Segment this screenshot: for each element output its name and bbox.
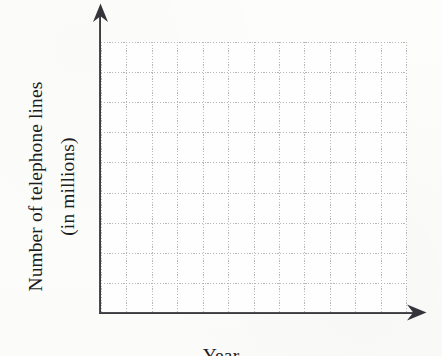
grid-line-horizontal	[101, 162, 406, 163]
grid-line-horizontal	[101, 193, 406, 194]
grid-line-horizontal	[101, 102, 406, 103]
grid-line-vertical	[126, 42, 127, 313]
grid-line-vertical	[355, 42, 356, 313]
arrow-up-icon	[92, 3, 109, 23]
grid-line-horizontal	[101, 132, 406, 133]
grid-line-vertical	[279, 42, 280, 313]
grid-line-vertical	[381, 42, 382, 313]
arrow-right-icon	[405, 303, 427, 322]
plot-area	[0, 0, 442, 356]
grid-line-vertical	[177, 42, 178, 313]
x-axis-label: Year	[0, 345, 442, 356]
grid-line-vertical	[304, 42, 305, 313]
grid-line-horizontal	[101, 72, 406, 73]
grid-line-horizontal	[101, 283, 406, 284]
grid-line-vertical	[406, 42, 407, 313]
grid-line-vertical	[330, 42, 331, 313]
grid-line-vertical	[203, 42, 204, 313]
x-axis-line	[99, 312, 417, 314]
grid-line-horizontal	[101, 253, 406, 254]
grid-line-vertical	[152, 42, 153, 313]
grid-line-horizontal	[101, 42, 406, 43]
figure-canvas: Number of telephone lines (in millions) …	[0, 0, 442, 356]
grid-line-vertical	[254, 42, 255, 313]
grid-line-vertical	[228, 42, 229, 313]
plot-grid	[101, 42, 406, 313]
y-axis-line	[99, 14, 101, 314]
grid-line-horizontal	[101, 223, 406, 224]
